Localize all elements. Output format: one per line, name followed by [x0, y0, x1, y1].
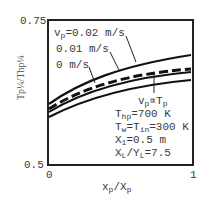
label-vp-002: vp=0.02 m/s — [54, 27, 125, 40]
param-xl-yl: XL/YL=7.5 — [115, 147, 171, 160]
chart: vp=0.02 m/s 0.01 m/s 0 m/s vp∝Tp Thp=700… — [0, 0, 206, 208]
x-tick-right: 1 — [190, 169, 197, 181]
x-tick-left: 0 — [46, 169, 53, 181]
leader-line-001 — [110, 52, 119, 70]
param-thp: Thp=700 K — [115, 108, 171, 121]
y-tick-top: 0.75 — [20, 15, 46, 27]
x-axis-label: xp/Xp — [102, 181, 132, 194]
param-tw-tin: Tw=Tin=300 K — [115, 121, 189, 134]
y-tick-bottom: 0.5 — [24, 159, 44, 171]
label-vp-001: 0.01 m/s — [56, 43, 109, 55]
label-vp-prop-tp: vp∝Tp — [138, 95, 168, 108]
leader-line-002 — [126, 36, 136, 62]
label-vp-000: 0 m/s — [56, 59, 89, 71]
y-axis-label: Tp¼/Thp¼ — [15, 55, 26, 100]
param-x1: X1=0.5 m — [115, 134, 166, 147]
